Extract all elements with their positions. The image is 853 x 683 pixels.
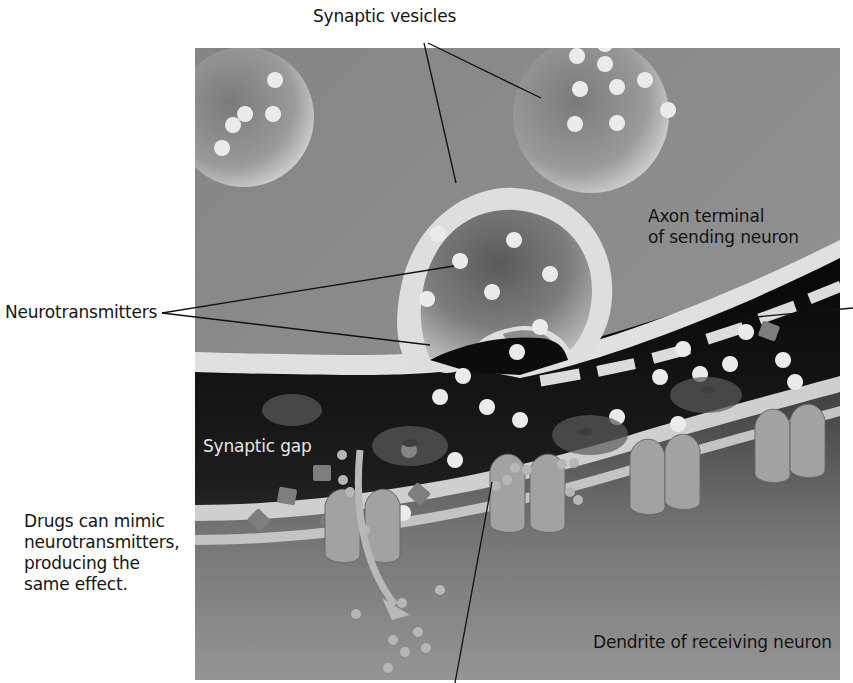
illustration: [0, 0, 853, 683]
synapse-diagram: Synaptic vesicles Axon terminal of sendi…: [0, 0, 853, 683]
label-drugs-line2: neurotransmitters,: [24, 532, 179, 553]
label-synaptic-gap: Synaptic gap: [203, 436, 312, 457]
label-axon-terminal-line2: of sending neuron: [648, 227, 799, 248]
label-synaptic-vesicles: Synaptic vesicles: [313, 6, 456, 27]
label-axon-terminal-line1: Axon terminal: [648, 206, 764, 227]
vesicle-top-right: [513, 37, 669, 193]
label-drugs-line4: same effect.: [24, 574, 128, 595]
label-dendrite: Dendrite of receiving neuron: [593, 632, 832, 653]
label-neurotransmitters: Neurotransmitters: [5, 302, 157, 323]
label-drugs-line3: producing the: [24, 553, 140, 574]
label-drugs-line1: Drugs can mimic: [24, 511, 165, 532]
